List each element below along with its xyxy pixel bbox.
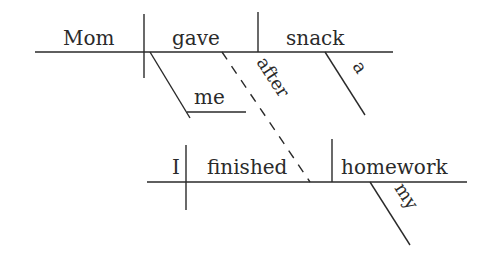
word-mom: Mom <box>63 26 115 50</box>
word-snack: snack <box>286 26 345 50</box>
word-my: my <box>391 179 424 214</box>
indirect-object-slant <box>150 52 190 118</box>
word-gave: gave <box>172 26 220 50</box>
word-after: after <box>253 53 295 102</box>
word-me: me <box>194 85 225 109</box>
word-i: I <box>172 155 180 179</box>
word-homework: homework <box>341 155 448 179</box>
sentence-diagram: Mom gave snack a me after I finished hom… <box>0 0 493 255</box>
word-finished: finished <box>207 155 288 179</box>
word-a: a <box>349 57 373 78</box>
